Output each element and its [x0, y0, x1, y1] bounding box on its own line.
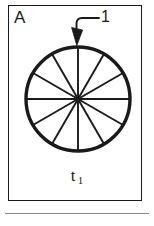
arrow-head	[72, 28, 83, 46]
figure-panel-a: A 1 t1	[0, 0, 154, 226]
bottom-separator-rule	[5, 213, 149, 214]
callout-arrow-group	[72, 18, 99, 46]
time-label-subscript: 1	[75, 174, 83, 186]
time-label: t1	[0, 166, 154, 190]
diagram-canvas	[0, 0, 154, 226]
